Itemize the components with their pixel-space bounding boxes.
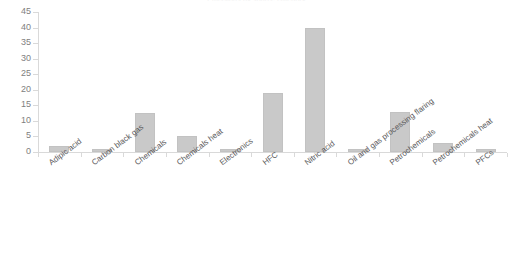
y-axis-tick-label: 40 [3, 23, 31, 32]
chart-title: Emissions by source category [0, 0, 513, 1]
y-axis-tick-labels: 051015202530354045 [0, 0, 31, 266]
x-axis-tick-mark [379, 153, 380, 157]
y-axis-tick-label: 45 [3, 7, 31, 16]
y-axis-tick-label: 35 [3, 38, 31, 47]
x-axis-tick-mark [166, 153, 167, 157]
bar [305, 28, 325, 152]
x-axis-tick-mark [38, 153, 39, 157]
x-axis-tick-mark [336, 153, 337, 157]
bar [135, 113, 155, 152]
x-axis-tick-mark [422, 153, 423, 157]
bar-chart: Emissions by source category 05101520253… [0, 0, 513, 266]
x-axis-tick-mark [209, 153, 210, 157]
bars-container [38, 12, 507, 152]
x-axis-tick-mark [507, 153, 508, 157]
x-axis-tick-mark [251, 153, 252, 157]
y-axis-tick-label: 10 [3, 116, 31, 125]
y-axis-tick-label: 30 [3, 54, 31, 63]
y-axis-tick-label: 25 [3, 69, 31, 78]
x-axis-tick-mark [123, 153, 124, 157]
y-axis-tick-label: 20 [3, 85, 31, 94]
y-axis-tick-label: 15 [3, 100, 31, 109]
bar [263, 93, 283, 152]
x-axis-tick-mark [294, 153, 295, 157]
bar [177, 136, 197, 152]
y-axis-tick-label: 5 [3, 131, 31, 140]
x-axis-line [38, 152, 507, 153]
x-axis-tick-mark [81, 153, 82, 157]
bar [390, 112, 410, 152]
x-axis-tick-mark [464, 153, 465, 157]
y-axis-tick-label: 0 [3, 147, 31, 156]
bar [433, 143, 453, 152]
